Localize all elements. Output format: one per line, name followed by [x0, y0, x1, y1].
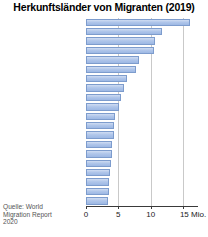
x-axis-line	[86, 206, 198, 207]
x-axis-tick	[118, 206, 119, 209]
bar	[86, 66, 136, 73]
bar-row: Indien	[86, 18, 183, 27]
x-axis-tick-label: 0	[84, 210, 88, 219]
bar-row: Ägypten	[86, 187, 183, 196]
bar	[86, 150, 112, 157]
bar	[86, 160, 111, 167]
x-axis-tick-label: 5	[116, 210, 120, 219]
bar	[86, 169, 110, 176]
bar	[86, 56, 139, 63]
plot-area: IndienMexikoChinaRusslandSyrienBanglades…	[86, 18, 183, 206]
bar-row: Polen	[86, 121, 183, 130]
bar	[86, 141, 112, 148]
bar-row: Pakistan	[86, 74, 183, 83]
x-axis-tick-label: 15 Mio.	[180, 210, 206, 219]
bar	[86, 113, 115, 120]
bar-row: Philippinen	[86, 93, 183, 102]
bar-row: Türkei	[86, 197, 183, 206]
bar	[86, 84, 124, 91]
bar-row: Kasachstan	[86, 150, 183, 159]
bar-row: Palästina	[86, 159, 183, 168]
bar-row: Großbritannien	[86, 131, 183, 140]
bar	[86, 178, 109, 185]
bar	[86, 103, 119, 110]
bar-row: Syrien	[86, 56, 183, 65]
bar	[86, 122, 114, 129]
x-axis-tick	[183, 206, 184, 209]
x-axis-tick	[151, 206, 152, 209]
gridline	[183, 18, 184, 206]
bar-row: Mexiko	[86, 27, 183, 36]
bar-row: Ukraine	[86, 84, 183, 93]
bar	[86, 197, 108, 204]
chart-title: Herkunftsländer von Migranten (2019)	[0, 1, 208, 13]
bar-row: Myanmar	[86, 168, 183, 177]
bar	[86, 131, 114, 138]
bar	[86, 19, 190, 26]
bar	[86, 188, 109, 195]
bar-row: Bangladesch	[86, 65, 183, 74]
bar-row: Rumänien	[86, 178, 183, 187]
x-axis-tick	[86, 206, 87, 209]
bar-row: China	[86, 37, 183, 46]
bar-row: Afghanistan	[86, 103, 183, 112]
bar	[86, 75, 127, 82]
bar-row: Indonesien	[86, 112, 183, 121]
x-axis-tick-label: 10	[146, 210, 155, 219]
bar	[86, 47, 154, 54]
source-note: Quelle: World Migration Report 2020	[3, 203, 63, 226]
chart-container: Herkunftsländer von Migranten (2019) Ind…	[0, 0, 208, 237]
bar-row: Russland	[86, 46, 183, 55]
bar	[86, 94, 121, 101]
bar	[86, 37, 155, 44]
bar	[86, 28, 162, 35]
bar-row: Deutschland	[86, 140, 183, 149]
